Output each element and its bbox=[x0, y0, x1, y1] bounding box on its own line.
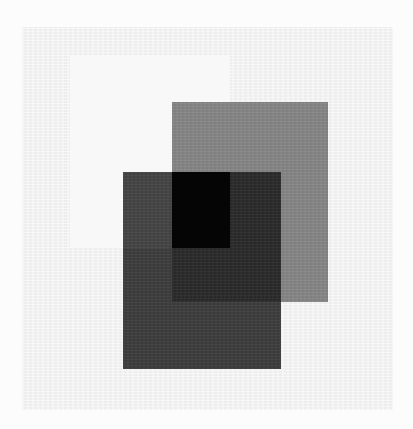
black-triple-overlap bbox=[172, 172, 230, 248]
dark-light-overlap bbox=[123, 172, 172, 248]
artwork-canvas bbox=[0, 0, 413, 429]
